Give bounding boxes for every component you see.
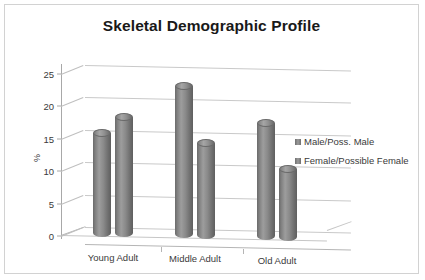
x-axis-category-label: Middle Adult <box>169 253 221 264</box>
bar[interactable] <box>175 86 193 238</box>
chart-legend: Male/Poss. MaleFemale/Possible Female <box>295 136 423 174</box>
y-axis-tick-mark <box>57 171 61 172</box>
legend-item[interactable]: Female/Possible Female <box>295 155 423 166</box>
legend-swatch-icon <box>295 139 301 145</box>
bar-cap <box>115 113 133 121</box>
x-axis-category-label: Young Adult <box>88 252 138 263</box>
x-axis-tick-mark <box>243 249 244 254</box>
chart-frame: Skeletal Demographic Profile % 051015202… <box>4 4 419 274</box>
bar-cap <box>257 119 275 127</box>
y-axis-tick-label: 25 <box>43 69 54 80</box>
legend-label: Female/Possible Female <box>304 155 409 166</box>
legend-label: Male/Poss. Male <box>304 136 374 147</box>
y-axis-tick-mark <box>57 106 61 107</box>
bar[interactable] <box>279 169 297 240</box>
y-axis-tick-mark <box>57 203 61 204</box>
y-axis-tick-mark <box>57 138 61 139</box>
bar[interactable] <box>197 143 215 239</box>
bar[interactable] <box>115 117 133 237</box>
y-axis-tick-label: 10 <box>43 166 54 177</box>
y-axis-tick-label: 5 <box>49 198 54 209</box>
legend-item[interactable]: Male/Poss. Male <box>295 136 423 147</box>
bar-cap <box>93 129 111 137</box>
bar-cap <box>197 139 215 147</box>
x-axis-category-label: Old Adult <box>258 255 297 266</box>
y-axis-title: % <box>32 154 42 162</box>
legend-swatch-icon <box>295 158 301 164</box>
bar[interactable] <box>257 123 275 240</box>
y-axis-tick-label: 20 <box>43 101 54 112</box>
chart-title: Skeletal Demographic Profile <box>5 17 418 35</box>
y-axis-line <box>61 64 62 239</box>
y-axis-tick-label: 15 <box>43 133 54 144</box>
bar[interactable] <box>93 133 111 237</box>
y-axis-tick-mark <box>57 236 61 237</box>
x-axis-tick-mark <box>161 247 162 252</box>
y-axis-tick-mark <box>57 74 61 75</box>
y-axis-tick-label: 0 <box>49 231 54 242</box>
bar-cap <box>175 82 193 90</box>
